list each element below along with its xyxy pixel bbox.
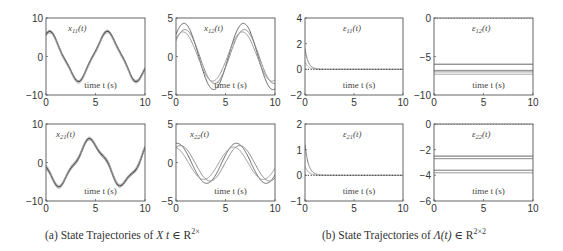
plot-eps22: 0510−6−4−20ε22(t)time t (s) xyxy=(420,119,539,214)
y-tick-label: −10 xyxy=(26,90,43,101)
figure-panels: 0510−10010x11(t)time t (s)0510−505x12(t)… xyxy=(0,0,563,225)
series-trace2 xyxy=(46,30,145,80)
caption-b-set: ∈ R xyxy=(452,229,474,241)
series-trace2 xyxy=(176,30,275,84)
y-tick-label: 0 xyxy=(425,119,431,130)
caption-a-sup: 2× xyxy=(191,227,200,236)
plot-title: x22(t) xyxy=(189,129,209,140)
caption-a-t: t xyxy=(163,229,172,241)
x-axis-label: time t (s) xyxy=(472,186,505,196)
caption-b: (b) State Trajectories of Λ(t) ∈ R2×2 xyxy=(322,227,486,242)
x-tick-label: 0 xyxy=(43,203,49,214)
y-tick-label: −10 xyxy=(26,196,43,207)
y-tick-label: 4 xyxy=(296,13,302,24)
x-tick-label: 5 xyxy=(481,97,487,108)
x-axis-label: time t (s) xyxy=(343,186,376,196)
plot-eps12: 0510−10−50ε12(t)time t (s) xyxy=(414,13,539,108)
x-tick-label: 5 xyxy=(481,203,487,214)
x-tick-label: 10 xyxy=(527,97,539,108)
y-tick-label: 10 xyxy=(32,13,44,24)
x-tick-label: 5 xyxy=(93,97,99,108)
x-tick-label: 0 xyxy=(431,97,437,108)
plot-title: x11(t) xyxy=(67,23,87,34)
y-tick-label: 2 xyxy=(296,39,302,50)
y-tick-label: −1 xyxy=(291,196,303,207)
x-tick-label: 10 xyxy=(527,203,539,214)
series-trace3 xyxy=(46,137,145,185)
series-decay2 xyxy=(305,62,403,70)
x-axis-label: time t (s) xyxy=(472,80,505,90)
y-tick-label: −4 xyxy=(420,170,432,181)
x-tick-label: 5 xyxy=(223,97,229,108)
y-tick-label: 10 xyxy=(32,119,44,130)
y-tick-label: 1 xyxy=(296,145,302,156)
x-axis-label: time t (s) xyxy=(84,186,117,196)
y-tick-label: −5 xyxy=(162,196,174,207)
y-tick-label: 0 xyxy=(37,52,43,63)
plot-x22: 0510−505x22(t)time t (s) xyxy=(162,119,281,214)
x-tick-label: 10 xyxy=(397,203,409,214)
x-tick-label: 5 xyxy=(93,203,99,214)
y-tick-label: 0 xyxy=(425,13,431,24)
caption-b-var: Λ(t) xyxy=(434,229,452,241)
x-axis-label: time t (s) xyxy=(343,80,376,90)
series-trace3 xyxy=(176,32,275,81)
series-decay1 xyxy=(305,145,403,176)
plot-title: x21(t) xyxy=(55,129,75,140)
caption-a-set: ∈ R xyxy=(172,229,191,241)
y-tick-label: 0 xyxy=(296,170,302,181)
x-tick-label: 0 xyxy=(302,203,308,214)
y-tick-label: −2 xyxy=(420,145,432,156)
plot-title: ε22(t) xyxy=(472,129,491,140)
y-tick-label: −6 xyxy=(420,196,432,207)
plot-x21: 0510−10010x21(t)time t (s) xyxy=(26,119,151,214)
plot-eps11: 0510−2024ε11(t)time t (s) xyxy=(291,13,409,108)
series-trace3 xyxy=(46,33,145,83)
plot-title: ε21(t) xyxy=(343,129,362,140)
x-tick-label: 10 xyxy=(269,97,281,108)
x-axis-label: time t (s) xyxy=(214,186,247,196)
series-trace1 xyxy=(46,139,145,187)
plot-x12: 0510−505x12(t)time t (s) xyxy=(162,13,281,108)
y-tick-label: −5 xyxy=(420,52,432,63)
x-axis-label: time t (s) xyxy=(214,80,247,90)
series-trace2 xyxy=(176,146,275,181)
plot-x11: 0510−10010x11(t)time t (s) xyxy=(26,13,151,108)
x-tick-label: 10 xyxy=(139,97,151,108)
plot-title: x12(t) xyxy=(203,23,223,34)
y-tick-label: −5 xyxy=(162,90,174,101)
y-tick-label: 0 xyxy=(167,52,173,63)
y-tick-label: 0 xyxy=(296,64,302,75)
series-trace2 xyxy=(46,140,145,188)
x-tick-label: 0 xyxy=(173,203,179,214)
y-tick-label: 0 xyxy=(167,158,173,169)
x-tick-label: 5 xyxy=(223,203,229,214)
x-tick-label: 5 xyxy=(351,203,357,214)
x-tick-label: 0 xyxy=(431,203,437,214)
x-axis-label: time t (s) xyxy=(84,80,117,90)
caption-a-text: (a) State Trajectories of xyxy=(45,229,156,241)
y-tick-label: 5 xyxy=(167,13,173,24)
x-tick-label: 5 xyxy=(351,97,357,108)
x-tick-label: 0 xyxy=(173,97,179,108)
y-tick-label: −2 xyxy=(291,90,303,101)
y-tick-label: 0 xyxy=(37,158,43,169)
x-tick-label: 10 xyxy=(397,97,409,108)
series-decay2 xyxy=(305,166,403,175)
y-tick-label: 2 xyxy=(296,119,302,130)
caption-b-text: (b) State Trajectories of xyxy=(322,229,434,241)
plot-title: ε11(t) xyxy=(343,23,361,34)
plot-title: ε12(t) xyxy=(472,23,491,34)
y-tick-label: 5 xyxy=(167,119,173,130)
x-tick-label: 10 xyxy=(269,203,281,214)
x-tick-label: 0 xyxy=(43,97,49,108)
x-tick-label: 0 xyxy=(302,97,308,108)
series-decay1 xyxy=(305,49,403,70)
y-tick-label: −10 xyxy=(414,90,431,101)
plot-eps21: 0510−1012ε21(t)time t (s) xyxy=(291,119,409,214)
caption-b-sup: 2×2 xyxy=(474,227,487,236)
caption-a: (a) State Trajectories of X t ∈ R2× xyxy=(45,227,200,242)
x-tick-label: 10 xyxy=(139,203,151,214)
